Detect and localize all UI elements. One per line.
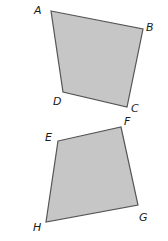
vertex-label-d: D [53, 95, 61, 108]
quadrilaterals-diagram: A B C D E F G H [0, 0, 168, 241]
vertex-label-h: H [33, 221, 41, 234]
vertex-label-e: E [45, 131, 52, 144]
vertex-label-c: C [131, 102, 139, 115]
vertex-label-g: G [139, 211, 148, 224]
quadrilateral-efgh [46, 127, 138, 222]
quadrilateral-abcd [51, 11, 143, 107]
vertex-label-a: A [33, 4, 42, 17]
vertex-label-b: B [146, 21, 154, 34]
vertex-label-f: F [124, 115, 131, 128]
